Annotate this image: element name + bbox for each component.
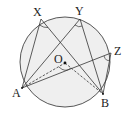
label-a: A [12,86,21,100]
point-b [102,93,104,95]
point-a [21,87,23,89]
label-y: Y [75,4,84,18]
label-z: Z [114,44,121,58]
center-point-o [64,62,67,65]
label-o: O [54,52,63,66]
label-x: X [33,5,42,19]
label-b: B [101,96,109,110]
circle-diagram: X Y Z O A B [0,0,131,122]
